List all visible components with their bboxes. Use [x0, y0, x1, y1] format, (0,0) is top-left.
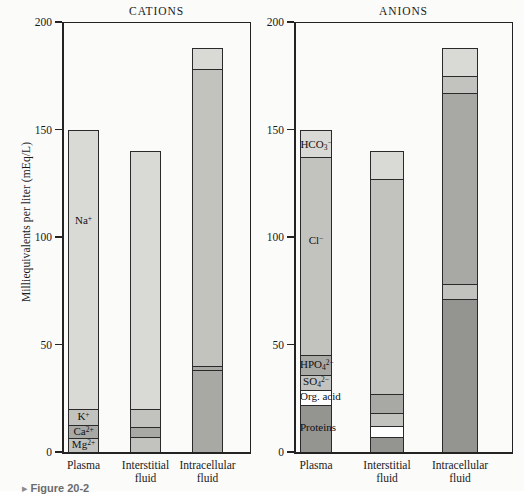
y-axis-tick — [55, 236, 62, 238]
y-axis-tick — [287, 129, 294, 131]
bar-segment — [371, 180, 403, 395]
y-axis-tick-label: 50 — [20, 339, 52, 351]
y-axis-tick-label: 200 — [252, 16, 284, 28]
bar-segment — [131, 428, 160, 438]
bar-segment-label: Org. acid — [300, 391, 332, 402]
y-axis-tick-label: 100 — [20, 231, 52, 243]
bar-segment-label: HPO42− — [300, 359, 332, 371]
bar-segment — [193, 49, 222, 71]
y-axis-tick-label: 0 — [20, 446, 52, 458]
y-axis-tick — [287, 236, 294, 238]
category-label: Intracellularfluid — [428, 459, 492, 484]
y-axis-tick — [55, 344, 62, 346]
y-axis-tick-label: 150 — [20, 124, 52, 136]
y-axis-tick — [287, 21, 294, 23]
y-axis-tick — [55, 451, 62, 453]
bar-segment-label: Mg2+ — [68, 439, 99, 450]
bar-segment-label: Ca2+ — [68, 426, 99, 437]
category-label-line2: fluid — [428, 472, 492, 485]
bar-segment-label: Na+ — [68, 215, 99, 226]
bar-segment — [131, 438, 160, 452]
y-axis-tick — [287, 344, 294, 346]
bar-segment-label: Cl− — [300, 235, 332, 246]
y-axis-cations — [62, 22, 63, 452]
bar-segment — [371, 414, 403, 427]
caption-text: Figure 20-2 — [31, 482, 90, 494]
category-label: Plasma — [54, 459, 113, 472]
bar-segment — [69, 131, 98, 411]
y-axis-tick-label: 0 — [252, 446, 284, 458]
bar-segment — [443, 77, 477, 94]
bar-cations-interstitial-fluid — [130, 151, 161, 452]
category-label-line1: Intracellular — [178, 459, 237, 472]
category-label-line1: Plasma — [286, 459, 346, 472]
y-axis-tick-label: 100 — [252, 231, 284, 243]
y-axis-tick — [287, 451, 294, 453]
panel-title-anions: ANIONS — [294, 5, 513, 17]
category-label-line2: fluid — [178, 472, 237, 485]
y-axis-tick-label: 50 — [252, 339, 284, 351]
bar-anions-plasma — [300, 130, 332, 453]
y-axis-tick — [55, 21, 62, 23]
y-axis-line — [62, 22, 64, 452]
bar-segment-label: SO42− — [300, 376, 332, 388]
category-label: Plasma — [286, 459, 346, 472]
bar-segment — [131, 410, 160, 428]
bar-segment — [371, 395, 403, 414]
bar-segment — [443, 49, 477, 77]
category-label-line1: Interstitial — [356, 459, 418, 472]
bar-segment — [371, 438, 403, 452]
x-axis-baseline — [294, 452, 513, 454]
bar-anions-interstitial-fluid — [370, 151, 404, 452]
category-label: Intracellularfluid — [178, 459, 237, 484]
bar-segment — [443, 94, 477, 285]
caption-marker-icon: ▸ — [22, 482, 28, 495]
panel-title-cations: CATIONS — [62, 5, 251, 17]
category-label: Interstitialfluid — [356, 459, 418, 484]
y-axis-tick-label: 150 — [252, 124, 284, 136]
category-label-line2: fluid — [356, 472, 418, 485]
y-axis-tick — [55, 129, 62, 131]
category-label: Interstitialfluid — [116, 459, 175, 484]
figure-caption: ▸Figure 20-2 — [22, 482, 89, 495]
bar-cations-plasma — [68, 130, 99, 453]
y-axis-anions — [294, 22, 295, 452]
bar-segment-label: Proteins — [300, 422, 332, 433]
bar-segment — [443, 285, 477, 300]
bar-segment — [193, 70, 222, 367]
bar-segment — [443, 300, 477, 452]
bar-segment-label: K+ — [68, 411, 99, 422]
bar-segment-label: HCO3− — [300, 139, 332, 151]
y-axis-tick-label: 200 — [20, 16, 52, 28]
category-label-line1: Interstitial — [116, 459, 175, 472]
category-label-line2: fluid — [116, 472, 175, 485]
bar-segment — [371, 152, 403, 180]
x-axis-baseline — [62, 452, 251, 454]
bar-segment — [193, 371, 222, 452]
bar-segment — [131, 152, 160, 410]
bar-anions-intracellular-fluid — [442, 48, 478, 452]
bar-cations-intracellular-fluid — [192, 48, 223, 452]
bar-segment — [371, 427, 403, 438]
y-axis-title: Milliequivalents per liter (mEq/L) — [20, 112, 32, 332]
category-label-line1: Intracellular — [428, 459, 492, 472]
y-axis-line — [294, 22, 296, 452]
category-label-line1: Plasma — [54, 459, 113, 472]
bar-segment — [301, 158, 331, 356]
